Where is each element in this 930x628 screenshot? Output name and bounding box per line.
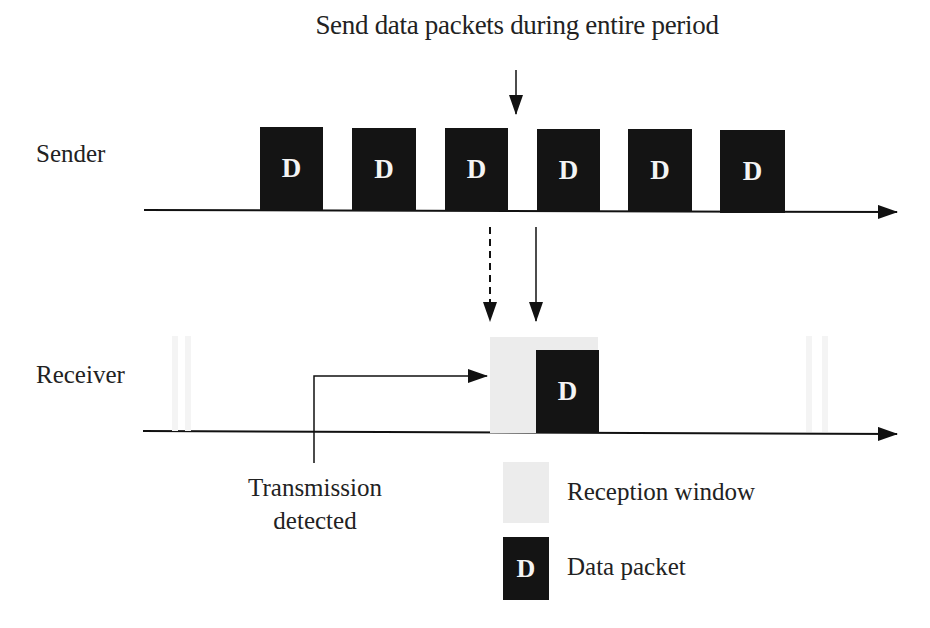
transmission-detected-label: Transmission detected [200,471,430,537]
sender-packet: D [720,130,785,213]
diagram-lines [0,0,930,628]
receiver-label: Receiver [36,361,125,389]
sender-packet: D [537,129,600,212]
ghost-window [172,336,178,431]
legend-data-packet-label: Data packet [567,553,686,581]
ghost-window [822,336,828,432]
ghost-window [185,336,191,431]
ghost-window [806,336,812,432]
sender-packet: D [445,128,508,211]
transmission-detected-line2: detected [200,504,430,537]
legend-reception-window-label: Reception window [567,478,755,506]
transmission-detected-line1: Transmission [200,471,430,504]
sender-packet: D [260,127,323,210]
sender-label: Sender [36,140,105,168]
diagram-title: Send data packets during entire period [0,10,930,41]
sender-packet: D [352,128,416,211]
detection-arrow [314,376,487,463]
legend-data-packet-swatch: D [503,537,549,600]
receiver-packet: D [536,350,599,433]
legend-reception-window-swatch [503,462,549,523]
sender-packet: D [628,129,692,212]
